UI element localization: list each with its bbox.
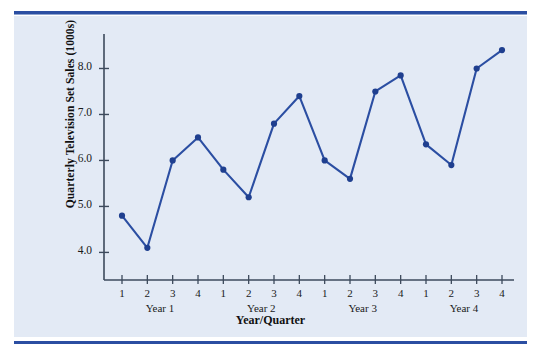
data-point: [296, 93, 302, 99]
x-tick-label: 1: [114, 287, 130, 299]
year-group-label: Year 1: [125, 302, 195, 314]
data-point: [220, 167, 226, 173]
x-tick-label: 2: [139, 287, 155, 299]
plot-panel: Quarterly Television Set Sales (1000s) Y…: [14, 16, 527, 337]
x-tick-label: 1: [215, 287, 231, 299]
bottom-rule: [14, 341, 527, 344]
data-point: [144, 245, 150, 251]
x-tick-label: 4: [494, 287, 510, 299]
y-tick-label: 6.0: [62, 152, 92, 164]
year-group-label: Year 2: [226, 302, 296, 314]
data-point: [372, 88, 378, 94]
x-tick-label: 4: [190, 287, 206, 299]
data-point: [347, 176, 353, 182]
data-point: [474, 65, 480, 71]
x-tick-label: 3: [165, 287, 181, 299]
x-tick-label: 1: [317, 287, 333, 299]
data-point: [170, 157, 176, 163]
y-tick-label: 8.0: [62, 60, 92, 72]
x-tick-label: 4: [291, 287, 307, 299]
year-group-label: Year 4: [429, 302, 499, 314]
figure-container: Quarterly Television Set Sales (1000s) Y…: [0, 0, 541, 357]
year-group-label: Year 3: [328, 302, 398, 314]
y-tick-label: 5.0: [62, 198, 92, 210]
x-tick-label: 3: [367, 287, 383, 299]
data-point: [119, 213, 125, 219]
x-tick-label: 3: [266, 287, 282, 299]
x-tick-label: 2: [443, 287, 459, 299]
y-tick-label: 4.0: [62, 244, 92, 256]
x-tick-label: 3: [469, 287, 485, 299]
data-point: [448, 162, 454, 168]
x-tick-label: 1: [418, 287, 434, 299]
data-point: [246, 194, 252, 200]
x-tick-label: 4: [393, 287, 409, 299]
data-line: [122, 50, 502, 248]
data-point: [499, 47, 505, 53]
data-point: [195, 134, 201, 140]
data-point: [271, 121, 277, 127]
data-point: [398, 72, 404, 78]
top-rule: [14, 11, 527, 14]
data-point: [423, 141, 429, 147]
data-point-markers: [119, 47, 505, 251]
y-tick-label: 7.0: [62, 106, 92, 118]
x-tick-label: 2: [241, 287, 257, 299]
x-tick-label: 2: [342, 287, 358, 299]
data-point: [322, 157, 328, 163]
